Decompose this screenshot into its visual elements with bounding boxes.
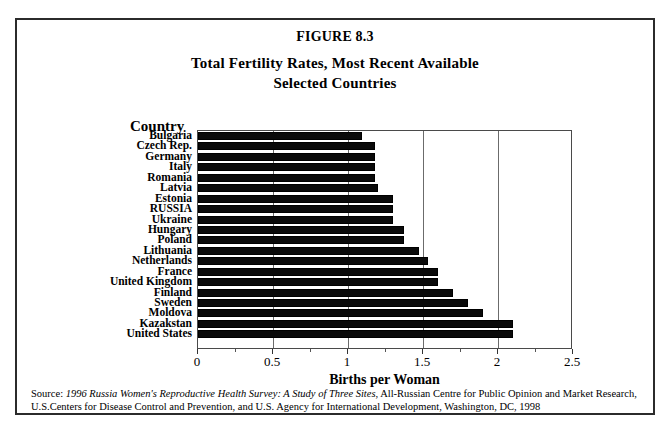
bar [198, 226, 404, 234]
bar-row [198, 173, 571, 183]
bar-row [198, 256, 571, 266]
x-tick-label: 0.5 [264, 354, 280, 370]
bar-row [198, 183, 571, 193]
bar [198, 184, 378, 192]
x-minor-tick-1.75 [460, 349, 461, 352]
bar [198, 289, 453, 297]
x-minor-tick-2.25 [535, 349, 536, 352]
category-label: United States [57, 328, 195, 338]
bar-row [198, 298, 571, 308]
bar [198, 278, 438, 286]
bar [198, 247, 419, 255]
bar-row [198, 162, 571, 172]
figure-frame: FIGURE 8.3 Total Fertility Rates, Most R… [15, 18, 655, 415]
bar [198, 236, 404, 244]
x-minor-tick-0.25 [235, 349, 236, 352]
bar [198, 320, 513, 328]
bar-chart: BulgariaCzech Rep.GermanyItalyRomaniaLat… [17, 20, 657, 417]
x-axis-tick-labels: 00.511.522.5 [197, 354, 572, 370]
category-label: RUSSIA [57, 203, 195, 213]
bar [198, 216, 393, 224]
x-minor-tick-1.25 [385, 349, 386, 352]
x-tick-label: 2.5 [564, 354, 580, 370]
source-prefix: Source: [31, 388, 66, 399]
bar-row [198, 194, 571, 204]
category-label: United Kingdom [57, 276, 195, 286]
x-tick-label: 2 [494, 354, 501, 370]
bar [198, 257, 428, 265]
bar-row [198, 215, 571, 225]
bar [198, 309, 483, 317]
x-tick-label: 0 [194, 354, 201, 370]
bar-row [198, 288, 571, 298]
bar-row [198, 131, 571, 141]
bar-row [198, 308, 571, 318]
plot-area [197, 130, 572, 349]
bar-row [198, 225, 571, 235]
bar [198, 205, 393, 213]
bar-row [198, 246, 571, 256]
bar [198, 163, 375, 171]
bar-row [198, 204, 571, 214]
bar [198, 299, 468, 307]
bar-row [198, 267, 571, 277]
value-axis-title: Births per Woman [197, 372, 572, 388]
bar-row [198, 319, 571, 329]
bar-row [198, 152, 571, 162]
category-label-column: BulgariaCzech Rep.GermanyItalyRomaniaLat… [57, 130, 195, 349]
source-title: 1996 Russia Women's Reproductive Health … [66, 388, 376, 399]
bar-row [198, 277, 571, 287]
x-tick-label: 1.5 [414, 354, 430, 370]
bar [198, 132, 362, 140]
bar-row [198, 329, 571, 339]
bar-row [198, 141, 571, 151]
bar [198, 153, 375, 161]
bar [198, 195, 393, 203]
bar [198, 268, 438, 276]
bar [198, 330, 513, 338]
bar-row [198, 235, 571, 245]
x-minor-tick-0.75 [310, 349, 311, 352]
bar [198, 142, 375, 150]
x-tick-label: 1 [344, 354, 351, 370]
bar [198, 174, 375, 182]
bar-series [198, 131, 571, 348]
source-note: Source: 1996 Russia Women's Reproductive… [31, 388, 643, 413]
